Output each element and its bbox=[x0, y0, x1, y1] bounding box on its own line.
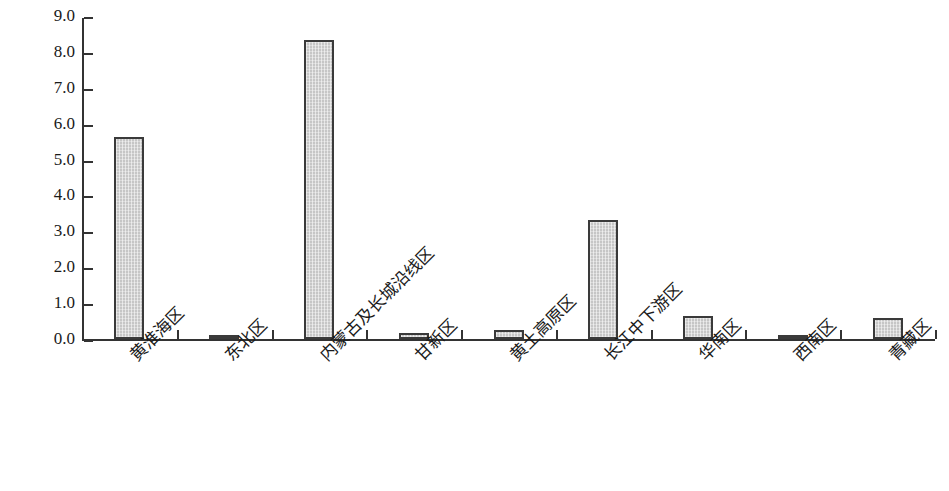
y-tick-mark bbox=[84, 304, 93, 306]
bar-chart-figure: 面积(万hm2) 0.01.02.03.04.05.06.07.08.09.0 … bbox=[0, 0, 949, 491]
y-tick-label: 1.0 bbox=[54, 293, 75, 313]
bar-黄淮海区 bbox=[114, 137, 144, 339]
y-tick-label: 6.0 bbox=[54, 114, 75, 134]
x-tick-mark bbox=[177, 330, 179, 339]
x-tick-mark bbox=[840, 330, 842, 339]
y-tick-mark bbox=[84, 161, 93, 163]
x-tick-mark bbox=[461, 330, 463, 339]
y-tick-mark bbox=[84, 17, 93, 19]
x-tick-mark bbox=[272, 330, 274, 339]
x-tick-mark bbox=[556, 330, 558, 339]
x-tick-mark bbox=[366, 330, 368, 339]
y-tick-mark bbox=[84, 89, 93, 91]
y-tick-mark bbox=[84, 53, 93, 55]
y-tick-label: 9.0 bbox=[54, 6, 75, 26]
y-tick-label: 7.0 bbox=[54, 78, 75, 98]
y-tick-label: 0.0 bbox=[54, 329, 75, 349]
y-tick-mark bbox=[84, 268, 93, 270]
y-tick-mark bbox=[84, 196, 93, 198]
x-tick-mark bbox=[651, 330, 653, 339]
x-tick-mark bbox=[935, 330, 937, 339]
y-tick-mark bbox=[84, 232, 93, 234]
y-tick-label: 2.0 bbox=[54, 257, 75, 277]
bar-长江中下游区 bbox=[588, 220, 618, 339]
y-axis-line bbox=[82, 18, 84, 341]
bar-内蒙古及长城沿线区 bbox=[304, 40, 334, 339]
y-tick-mark bbox=[84, 340, 93, 342]
y-tick-label: 3.0 bbox=[54, 221, 75, 241]
y-tick-mark bbox=[84, 125, 93, 127]
x-tick-mark bbox=[745, 330, 747, 339]
plot-area: 0.01.02.03.04.05.06.07.08.09.0 bbox=[82, 18, 935, 341]
y-tick-label: 5.0 bbox=[54, 150, 75, 170]
y-tick-label: 4.0 bbox=[54, 185, 75, 205]
y-tick-label: 8.0 bbox=[54, 42, 75, 62]
